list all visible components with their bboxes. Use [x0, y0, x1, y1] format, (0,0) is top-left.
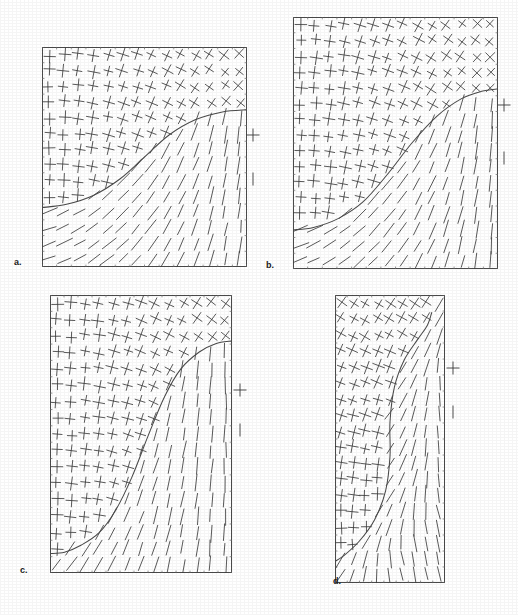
- panel-a-label: a.: [14, 258, 22, 267]
- panel-a-field: [42, 47, 247, 267]
- panel-c-field: [50, 295, 232, 573]
- panel-d-legend: [441, 354, 465, 426]
- panel-b-field: [293, 17, 498, 269]
- panel-c-label: c.: [20, 566, 28, 575]
- panel-d-label: d.: [333, 577, 341, 586]
- figure-container: a. b. c. d.: [0, 0, 518, 615]
- panel-c-legend: [228, 376, 252, 444]
- panel-d: [335, 295, 445, 583]
- panel-a-legend: [241, 121, 265, 193]
- panel-a: [42, 47, 247, 267]
- panel-c: [50, 295, 232, 573]
- panel-b: [293, 17, 498, 269]
- panel-b-label: b.: [266, 261, 274, 270]
- panel-b-legend: [492, 91, 516, 172]
- panel-d-field: [335, 295, 445, 583]
